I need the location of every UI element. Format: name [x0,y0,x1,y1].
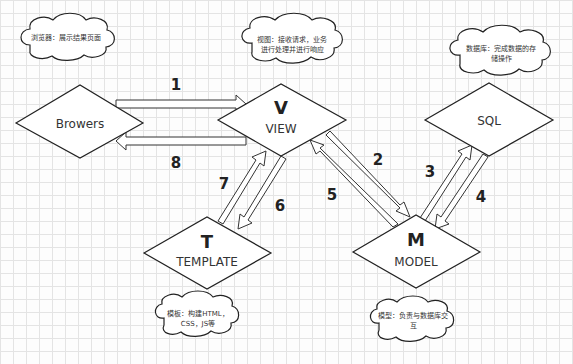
arrow-6-view-to-template [238,156,286,229]
step-5: 5 [327,186,337,204]
node-model-title: M [407,229,425,250]
step-6: 6 [275,197,285,215]
step-1: 1 [171,76,181,94]
node-view-title: V [274,97,288,118]
note-sql: 数据库：完成数据的存 储操作 [450,25,550,75]
note-model: 模型：负责与数据库交 互 [370,296,453,341]
note-browser-text: 浏览器：展示结果页面 [31,33,101,42]
note-browser: 浏览器：展示结果页面 [21,13,114,60]
arrow-1-browser-to-view [116,95,246,113]
arrow-5-model-to-view [310,140,398,227]
note-view-line2: 进行处理并进行响应 [261,45,324,54]
step-2: 2 [373,151,383,169]
note-model-line2: 互 [410,322,417,330]
note-template: 模板：构建HTML， CSS，JS等 [155,291,238,336]
node-template-label: TEMPLATE [175,255,238,269]
node-template[interactable]: T TEMPLATE [144,217,271,289]
node-browser-label: Browers [56,117,105,131]
node-template-title: T [201,231,214,252]
mvt-diagram: 浏览器：展示结果页面 视图：接收请求，业务 进行处理并进行响应 数据库：完成数据… [0,0,573,364]
node-model-label: MODEL [394,255,438,269]
note-sql-line1: 数据库：完成数据的存 [466,44,536,53]
step-7: 7 [219,175,229,193]
step-4: 4 [476,188,486,206]
note-view-line1: 视图：接收请求，业务 [257,35,327,44]
node-sql[interactable]: SQL [425,83,553,156]
node-model[interactable]: M MODEL [353,215,480,288]
arrow-2-view-to-model [326,131,410,217]
note-view: 视图：接收请求，业务 进行处理并进行响应 [242,13,342,63]
step-3: 3 [425,163,435,181]
node-view-label: VIEW [265,122,296,136]
arrow-8-view-to-browser [116,132,246,150]
node-sql-label: SQL [477,114,501,128]
note-sql-line2: 储操作 [491,54,512,63]
note-template-line2: CSS，JS等 [181,319,215,328]
note-model-line1: 模型：负责与数据库交 [378,311,448,320]
note-template-line1: 模板：构建HTML， [167,309,228,318]
step-8: 8 [171,154,181,172]
